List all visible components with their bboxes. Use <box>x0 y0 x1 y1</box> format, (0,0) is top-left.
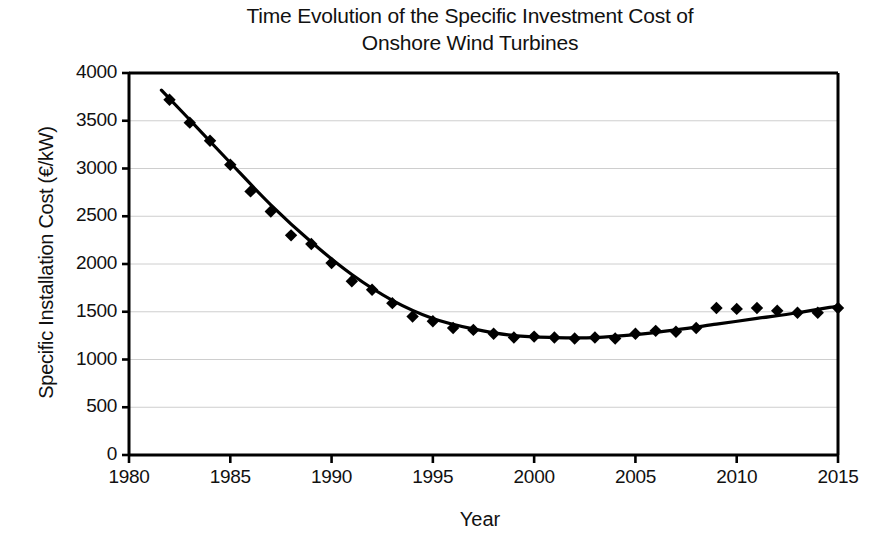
chart-figure: Time Evolution of the Specific Investmen… <box>0 0 869 547</box>
data-point-markers <box>163 94 844 345</box>
trend-line <box>161 90 838 338</box>
gridlines <box>129 121 838 455</box>
axis-ticks <box>122 73 838 463</box>
plot-area <box>0 0 869 547</box>
